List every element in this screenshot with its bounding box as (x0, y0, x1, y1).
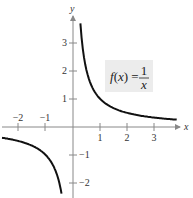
curve-negative-branch (2, 138, 62, 194)
x-tick-label: −1 (40, 112, 51, 123)
x-tick-label: 1 (98, 132, 103, 143)
y-tick-label: −2 (79, 177, 90, 188)
y-tick-label: 2 (62, 65, 67, 76)
x-axis-label: x (183, 121, 189, 132)
y-tick-label: 3 (62, 37, 67, 48)
svg-text:1: 1 (141, 63, 148, 78)
x-tick-label: −2 (13, 112, 24, 123)
svg-text:f(x) =: f(x) = (110, 69, 139, 84)
x-tick-label: 2 (125, 132, 130, 143)
svg-text:x: x (140, 77, 147, 92)
function-graph: f(x) = 1 x x y −2 −1 1 2 3 3 2 1 −1 −2 (0, 0, 193, 198)
x-tick-label: 3 (152, 132, 157, 143)
y-tick-label: 1 (62, 93, 67, 104)
y-tick-label: −1 (79, 149, 90, 160)
y-axis-label: y (69, 3, 75, 14)
